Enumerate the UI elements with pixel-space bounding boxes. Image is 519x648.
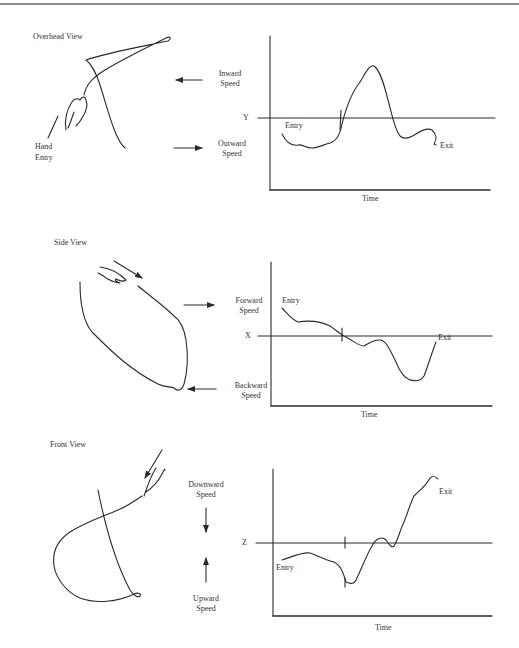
- inward-label-line2: Speed: [208, 79, 252, 89]
- hand-entry-label-line2: Entry: [35, 153, 53, 163]
- front-chart: [256, 469, 492, 616]
- side-chart: [258, 262, 492, 406]
- downward-speed-label: Downward Speed: [182, 480, 230, 500]
- exit-label: Exit: [438, 333, 451, 343]
- speed-curve: [282, 476, 438, 583]
- speed-curve: [282, 66, 436, 148]
- exit-label: Exit: [439, 487, 452, 497]
- forward-label-line1: Forward: [226, 296, 272, 306]
- backward-label-line2: Speed: [228, 391, 274, 401]
- hand-icon: [65, 97, 86, 130]
- forward-speed-label: Forward Speed: [226, 296, 272, 316]
- forward-label-line2: Speed: [226, 306, 272, 316]
- side-sketch: [80, 261, 216, 390]
- side-stroke-path: [80, 282, 187, 390]
- reference-axis-z-label: Z: [242, 538, 247, 548]
- backward-label-line1: Backward: [228, 381, 274, 391]
- time-axis-label: Time: [361, 410, 378, 420]
- time-axis-label: Time: [362, 194, 379, 204]
- outward-speed-label: Outward Speed: [208, 139, 256, 159]
- exit-label: Exit: [440, 141, 453, 151]
- pointer-arrow-icon: [145, 450, 162, 478]
- outward-label-line2: Speed: [208, 149, 256, 159]
- front-view-title: Front View: [50, 440, 86, 450]
- upward-label-line2: Speed: [184, 604, 228, 614]
- upward-label-line1: Upward: [184, 594, 228, 604]
- inward-label-line1: Inward: [208, 69, 252, 79]
- overhead-view-title: Overhead View: [33, 32, 83, 42]
- hand-entry-pointer: [48, 116, 58, 138]
- side-view-title: Side View: [54, 238, 87, 248]
- entry-label: Entry: [285, 121, 303, 131]
- reference-axis-x-label: X: [245, 331, 251, 341]
- front-sketch: [54, 450, 206, 601]
- outward-label-line1: Outward: [208, 139, 256, 149]
- upward-speed-label: Upward Speed: [184, 594, 228, 614]
- hand-icon: [98, 267, 126, 283]
- reference-axis-y-label: Y: [243, 113, 249, 123]
- hand-icon: [144, 468, 165, 496]
- entry-label: Entry: [282, 296, 300, 306]
- speed-curve: [282, 308, 436, 381]
- crossing-tick: [340, 110, 341, 130]
- diagram-canvas: [0, 0, 519, 648]
- inward-speed-label: Inward Speed: [208, 69, 252, 89]
- entry-label: Entry: [276, 563, 294, 573]
- hand-entry-label-line1: Hand: [35, 142, 52, 152]
- pointer-arrow-icon: [114, 261, 142, 278]
- time-axis-label: Time: [375, 623, 392, 633]
- backward-speed-label: Backward Speed: [228, 381, 274, 401]
- overhead-sketch: [48, 37, 202, 148]
- overhead-chart: [258, 36, 495, 190]
- overhead-stroke-path: [84, 37, 170, 148]
- downward-label-line2: Speed: [182, 490, 230, 500]
- front-stroke-path: [54, 490, 142, 601]
- downward-label-line1: Downward: [182, 480, 230, 490]
